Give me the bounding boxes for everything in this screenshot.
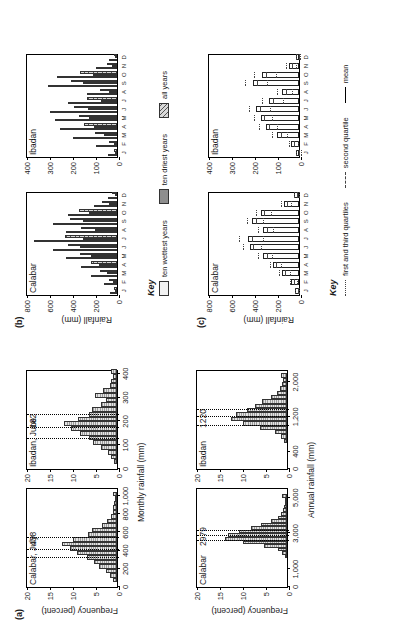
month-label: J [303,99,309,102]
histogram-bar [77,551,117,556]
month-bar [96,67,117,69]
x-tick-label: 2,000 [291,373,300,392]
second-quartile-mark [297,192,298,198]
y-tick-label: 0 [285,474,294,478]
month-label: A [121,90,127,94]
second-quartile-mark [264,210,265,216]
month-bar [66,257,117,259]
panel-a-ylabel-bottom: Frequency (percent) [211,606,288,616]
panel-b-key: Keyten wettest yearsten driest yearsall … [146,71,169,296]
first-quartile-mark [272,253,273,259]
month-bar [74,106,117,108]
histogram-bar [281,512,287,516]
month-label: N [303,64,309,68]
third-quartile-mark [245,80,246,86]
month-bar [91,261,117,263]
month-bar [91,255,117,257]
first-quartile-mark [263,218,264,224]
month-label: J [121,99,127,102]
histogram-bar [102,523,117,528]
x-tick [117,495,120,496]
y-tick-label: 20 [193,592,202,600]
plot-annotation-calabar-july: 438 [28,532,38,546]
panel-b-key-title: Key [146,71,156,296]
y-tick-label: 200 [251,162,260,175]
third-quartile-mark [258,227,259,233]
x-tick [117,568,120,569]
month-label: M [121,116,127,121]
histogram-bar [111,379,117,384]
panel-a-xlabel-monthly: Monthly rainfall (mm) [136,443,146,522]
y-tick [301,157,302,160]
histogram-bar [113,510,117,515]
month-label: J [121,289,127,292]
panel-a-tag: (a) [14,609,24,620]
month-label: J [121,246,127,249]
histogram-bar [282,494,287,498]
y-tick [243,587,244,590]
panel-b-key-items: ten wettest yearsten driest yearsall yea… [159,71,169,296]
second-quartile-mark [267,227,268,233]
month-label: M [303,133,309,138]
month-bar [114,54,117,56]
y-tick [197,587,198,590]
month-bar [109,91,117,93]
histogram-bar [103,388,117,393]
histogram-bar [95,393,117,398]
month-label: J [303,289,309,292]
y-tick-label: 300 [46,162,55,175]
histogram-bar [94,560,117,565]
month-label: D [303,55,309,59]
y-tick-label: 200 [274,300,283,313]
month-bar [108,154,117,156]
first-quartile-mark [291,201,292,207]
month-label: A [303,263,309,267]
month-label: A [303,228,309,232]
x-tick [117,420,120,421]
y-tick-label: 10 [239,592,248,600]
histogram-bar [108,450,117,455]
y-tick-label: 200 [69,162,78,175]
month-label: J [121,151,127,154]
month-label: S [303,81,309,85]
y-tick-label: 400 [23,162,32,175]
month-label: J [121,237,127,240]
histogram-bar [271,519,287,523]
month-bar [34,240,117,242]
key-label: mean [341,65,350,84]
figure-page: (a)0510152002004006008001,000Calabar, Ju… [0,0,401,628]
month-bar [66,231,117,233]
y-tick-label: 300 [228,162,237,175]
y-tick-label: 100 [274,162,283,175]
first-quartile-mark [277,124,278,130]
month-bar [53,249,117,251]
month-label: D [121,193,127,197]
month-bar [114,149,117,151]
y-tick-label: 0 [297,162,306,166]
month-bar [55,119,117,121]
histogram-bar [280,386,287,390]
y-tick [50,469,51,472]
plot-title-c-calabar: Calabar [210,263,220,293]
histogram-bar [114,501,117,506]
month-bar [109,59,117,61]
third-quartile-mark [243,244,244,250]
month-bar [109,203,117,205]
first-quartile-mark [290,270,291,276]
month-bar [112,65,117,67]
month-bar [104,283,117,285]
stat-line-first-quartile [27,557,119,558]
month-bar [108,197,117,199]
month-bar [50,111,117,113]
stat-line-first-quartile [197,425,289,426]
x-tick-label: 0 [121,585,130,589]
month-label: S [303,219,309,223]
stat-line-second-quartile [27,427,119,428]
month-bar [68,244,117,246]
histogram-bar [113,578,117,583]
month-bar [113,281,117,283]
second-quartile-mark [252,236,253,242]
axes-c-calabar: 0200400600800JFMAMJJASOND [208,192,300,296]
y-tick [73,295,74,298]
first-quartile-mark [299,192,300,198]
